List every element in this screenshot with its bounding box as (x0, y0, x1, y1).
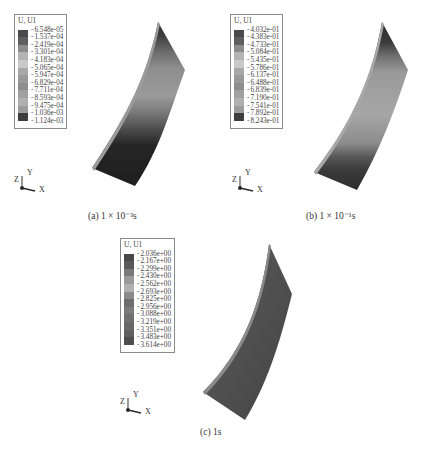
axis-triad-c: Y Z X (118, 392, 158, 422)
axis-label-x: X (145, 407, 151, 416)
caption-c: (c) 1s (200, 427, 221, 437)
deformed-plate-c (0, 0, 423, 460)
axis-label-z: Z (120, 397, 125, 406)
axis-label-y: Y (133, 390, 139, 399)
